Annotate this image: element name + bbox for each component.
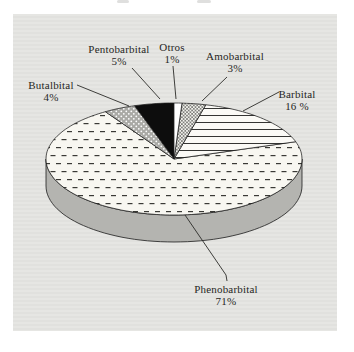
slice-label-butalbital: Butalbital 4% <box>28 79 73 103</box>
slice-name: Phenobarbital <box>194 283 258 295</box>
slice-name: Amobarbital <box>206 50 264 62</box>
slice-label-amobarbital: Amobarbital 3% <box>206 50 264 74</box>
pie-slices <box>46 103 302 215</box>
slice-label-barbital: Barbital 16 % <box>278 88 315 112</box>
slice-label-pentobarbital: Pentobarbital 5% <box>88 43 149 67</box>
slice-name: Pentobarbital <box>88 43 149 55</box>
slice-percentage: 71% <box>194 295 258 307</box>
leader-line <box>173 66 176 99</box>
slice-percentage: 3% <box>206 62 264 74</box>
leader-line <box>77 85 129 106</box>
slice-label-otros: Otros 1% <box>159 41 184 65</box>
slice-percentage: 1% <box>159 53 184 65</box>
pie-chart-figure: Pentobarbital 5% Otros 1% Amobarbital 3%… <box>0 0 354 352</box>
slice-name: Otros <box>159 41 184 53</box>
leader-line <box>132 68 160 99</box>
slice-percentage: 5% <box>88 55 149 67</box>
leader-line <box>243 92 279 111</box>
leader-line <box>202 77 227 101</box>
slice-name: Butalbital <box>28 79 73 91</box>
slice-name: Barbital <box>278 88 315 100</box>
slice-label-phenobarbital: Phenobarbital 71% <box>194 283 258 307</box>
slice-percentage: 4% <box>28 91 73 103</box>
slice-percentage: 16 % <box>278 100 315 112</box>
